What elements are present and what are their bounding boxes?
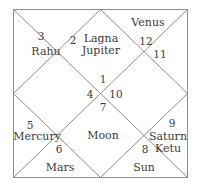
house-number-1: 1 bbox=[100, 74, 107, 85]
house-number-3: 3 bbox=[38, 31, 45, 42]
planet-moon: Moon bbox=[87, 130, 119, 142]
planet-mars: Mars bbox=[46, 162, 75, 174]
planet-ketu: Ketu bbox=[149, 143, 187, 155]
planet-jupiter: Jupiter bbox=[82, 45, 120, 57]
planet-sun: Sun bbox=[133, 162, 155, 174]
chart-lines bbox=[0, 0, 199, 189]
house-number-2: 2 bbox=[70, 35, 77, 46]
house-number-6: 6 bbox=[56, 144, 63, 155]
house-number-9: 9 bbox=[169, 118, 176, 129]
house-1-planets: Lagna Jupiter bbox=[82, 33, 120, 57]
house-number-4: 4 bbox=[87, 89, 94, 100]
kundali-chart: 3 Rahu 2 Lagna Jupiter 1 12 Venus 11 10 … bbox=[0, 0, 199, 189]
planet-mercury: Mercury bbox=[13, 131, 61, 143]
house-number-7: 7 bbox=[100, 102, 107, 113]
house-number-8: 8 bbox=[142, 144, 149, 155]
house-number-12: 12 bbox=[139, 36, 152, 47]
planet-venus: Venus bbox=[131, 17, 164, 29]
house-number-10: 10 bbox=[109, 89, 122, 100]
house-9-planets: Saturn Ketu bbox=[149, 131, 187, 155]
house-number-11: 11 bbox=[153, 49, 166, 60]
planet-rahu: Rahu bbox=[31, 46, 60, 58]
